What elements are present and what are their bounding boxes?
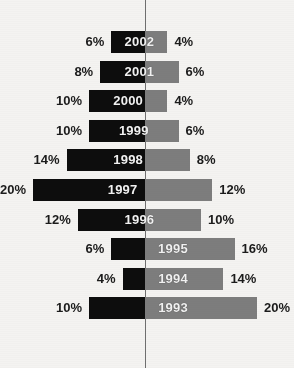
value-label-left: 6% (0, 238, 104, 260)
bar-row: 20018%6% (0, 61, 294, 83)
value-label-right: 4% (174, 31, 193, 53)
value-label-right: 6% (186, 120, 205, 142)
bar-row: 199612%10% (0, 209, 294, 231)
bar-year-label: 2001 (100, 61, 178, 83)
bar-row: 19956%16% (0, 238, 294, 260)
bar-row: 19944%14% (0, 268, 294, 290)
bar-row: 199720%12% (0, 179, 294, 201)
bar-year-label: 1999 (89, 120, 179, 142)
bar-row: 199310%20% (0, 297, 294, 319)
value-label-left: 6% (0, 31, 104, 53)
diverging-bar-chart: 20026%4%20018%6%200010%4%199910%6%199814… (0, 0, 294, 368)
value-label-right: 12% (219, 179, 245, 201)
value-label-left: 20% (0, 179, 26, 201)
value-label-right: 6% (186, 61, 205, 83)
value-label-left: 10% (0, 90, 82, 112)
value-label-right: 8% (197, 149, 216, 171)
bar-year-label: 1997 (33, 179, 212, 201)
value-label-left: 10% (0, 297, 82, 319)
value-label-right: 20% (264, 297, 290, 319)
value-label-right: 16% (242, 238, 268, 260)
bar-row: 200010%4% (0, 90, 294, 112)
bar-year-label: 2002 (111, 31, 167, 53)
value-label-left: 14% (0, 149, 60, 171)
value-label-right: 14% (230, 268, 256, 290)
value-label-right: 10% (208, 209, 234, 231)
bar-year-label: 1998 (67, 149, 190, 171)
bar-row: 199910%6% (0, 120, 294, 142)
chart-plot-area: 20026%4%20018%6%200010%4%199910%6%199814… (0, 0, 294, 368)
bar-year-label: 1994 (123, 268, 224, 290)
value-label-left: 12% (0, 209, 71, 231)
value-label-left: 4% (0, 268, 116, 290)
bar-row: 199814%8% (0, 149, 294, 171)
value-label-right: 4% (174, 90, 193, 112)
bar-year-label: 2000 (89, 90, 167, 112)
bar-row: 20026%4% (0, 31, 294, 53)
bar-year-label: 1996 (78, 209, 201, 231)
bar-year-label: 1993 (89, 297, 257, 319)
value-label-left: 8% (0, 61, 93, 83)
value-label-left: 10% (0, 120, 82, 142)
bar-year-label: 1995 (111, 238, 234, 260)
